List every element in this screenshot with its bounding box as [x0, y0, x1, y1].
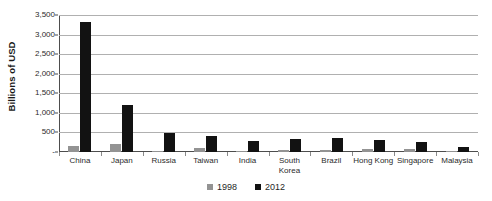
x-axis-label-brazil: Brazil [310, 156, 352, 166]
bar-2012-china [80, 22, 91, 152]
x-axis-label-china: China [59, 156, 101, 166]
bar-group [59, 15, 101, 152]
bar-1998-taiwan [194, 148, 205, 152]
bar-chart: Billions of USD 3,5003,0002,5002,0001,50… [0, 0, 492, 201]
bar-2012-hong-kong [374, 140, 385, 152]
bar-group [436, 15, 478, 152]
bar-1998-india [236, 151, 247, 152]
bar-group [227, 15, 269, 152]
bar-2012-south-korea [290, 139, 301, 152]
bar-1998-singapore [404, 149, 415, 152]
bar-1998-malaysia [446, 151, 457, 152]
bar-2012-india [248, 141, 259, 152]
y-axis-tick-mark [55, 15, 58, 16]
legend-item-1998[interactable]: 1998 [207, 182, 237, 192]
bar-1998-hong-kong [362, 149, 373, 152]
legend-label: 1998 [217, 182, 237, 192]
bar-group [269, 15, 311, 152]
bar-2012-singapore [416, 142, 427, 152]
x-axis-label-malaysia: Malaysia [436, 156, 478, 166]
bar-1998-japan [110, 144, 121, 152]
y-axis-tick-label: 1,500 [21, 89, 55, 97]
y-axis-tick-mark [55, 132, 58, 133]
y-axis-tick-mark [55, 93, 58, 94]
x-axis-label-india: India [227, 156, 269, 166]
bar-group [310, 15, 352, 152]
x-axis-category-labels: ChinaJapanRussiaTaiwanIndiaSouth KoreaBr… [59, 156, 478, 180]
x-axis-label-russia: Russia [143, 156, 185, 166]
bar-2012-brazil [332, 138, 343, 152]
y-axis-tick-mark [55, 54, 58, 55]
x-axis-label-taiwan: Taiwan [185, 156, 227, 166]
bar-group [185, 15, 227, 152]
bar-group [101, 15, 143, 152]
bar-1998-china [68, 146, 79, 152]
bar-2012-taiwan [206, 136, 217, 152]
legend-swatch-icon [255, 184, 261, 190]
y-axis-tick-mark [55, 34, 58, 35]
x-axis-label-hong-kong: Hong Kong [352, 156, 394, 166]
x-axis-label-south-korea: South Korea [269, 156, 311, 175]
bar-1998-russia [152, 151, 163, 152]
bar-group [143, 15, 185, 152]
y-axis-tick-label: 2,000 [21, 70, 55, 78]
y-axis-tick-mark [55, 73, 58, 74]
bar-2012-japan [122, 105, 133, 152]
bar-group [394, 15, 436, 152]
x-axis-label-japan: Japan [101, 156, 143, 166]
bar-2012-russia [164, 133, 175, 152]
legend-swatch-icon [207, 184, 213, 190]
legend-item-2012[interactable]: 2012 [255, 182, 285, 192]
x-axis-tick-mark [478, 152, 479, 156]
x-axis-label-singapore: Singapore [394, 156, 436, 166]
y-axis-tick-label: 3,500 [21, 11, 55, 19]
bar-group [352, 15, 394, 152]
y-axis-tick-label: 1,000 [21, 109, 55, 117]
chart-legend: 19982012 [0, 182, 492, 192]
legend-label: 2012 [265, 182, 285, 192]
y-axis-tick-mark [55, 112, 58, 113]
y-axis-tick-label: 3,000 [21, 31, 55, 39]
y-axis-tick-label: - [21, 148, 55, 156]
y-axis-title-text: Billions of USD [6, 41, 17, 111]
y-axis-tick-mark [55, 152, 58, 153]
bar-1998-brazil [320, 150, 331, 152]
bar-1998-south-korea [278, 150, 289, 152]
bar-2012-malaysia [458, 147, 469, 152]
bars-layer [59, 15, 478, 152]
y-axis-tick-labels: 3,5003,0002,5002,0001,5001,000500- [19, 15, 55, 152]
y-axis-tick-label: 2,500 [21, 50, 55, 58]
y-axis-tick-label: 500 [21, 128, 55, 136]
